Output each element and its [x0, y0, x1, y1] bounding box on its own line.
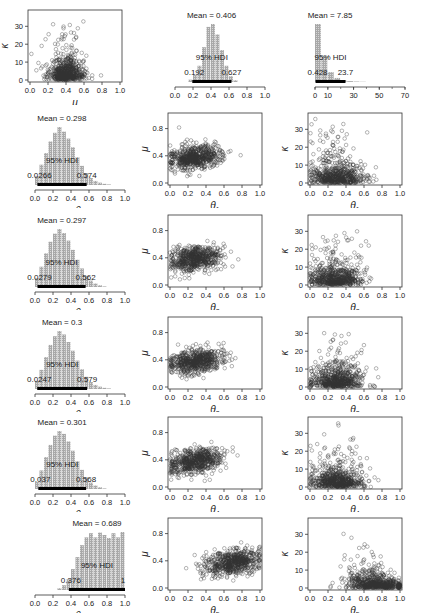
svg-text:0.8: 0.8: [237, 189, 247, 198]
svg-text:1.0: 1.0: [255, 291, 265, 300]
svg-text:0.8: 0.8: [377, 189, 387, 198]
scatter-panel-5-2: 0.00.20.40.60.81.00102030θ5κ: [280, 508, 420, 613]
svg-text:0.0: 0.0: [153, 179, 163, 188]
svg-text:0.4: 0.4: [153, 151, 163, 160]
bar-panel-0-1: 0.00.20.40.60.81.0μMean = 0.40695% HDI0.…: [140, 0, 280, 105]
svg-text:0.0: 0.0: [165, 291, 175, 300]
svg-text:20: 20: [295, 245, 303, 254]
svg-text:0.8: 0.8: [377, 291, 387, 300]
svg-text:30: 30: [295, 125, 303, 134]
svg-text:0.4: 0.4: [341, 189, 351, 198]
scatter-panel-3-2: 0.00.20.40.60.81.00102030θ3κ: [280, 307, 420, 412]
svg-text:0.4: 0.4: [341, 493, 351, 502]
svg-text:κ: κ: [280, 450, 290, 456]
svg-text:0.8: 0.8: [97, 86, 107, 95]
svg-text:0.2: 0.2: [183, 594, 193, 603]
svg-text:0.4: 0.4: [341, 594, 351, 603]
scatter-panel-4-2: 0.00.20.40.60.81.00102030θ4κ: [280, 407, 420, 512]
svg-text:0.0266: 0.0266: [27, 171, 52, 180]
svg-text:0.0: 0.0: [165, 594, 175, 603]
svg-text:0.376: 0.376: [61, 576, 82, 585]
svg-text:0.2: 0.2: [183, 189, 193, 198]
histogram-bar: [71, 451, 75, 489]
svg-text:0.0279: 0.0279: [27, 273, 52, 282]
svg-text:10: 10: [295, 161, 303, 170]
svg-text:0.8: 0.8: [153, 328, 163, 337]
svg-text:0.0: 0.0: [165, 493, 175, 502]
svg-text:1.0: 1.0: [120, 296, 130, 305]
svg-text:95% HDI: 95% HDI: [46, 258, 78, 267]
svg-text:0.4: 0.4: [201, 594, 211, 603]
svg-text:70: 70: [401, 91, 409, 100]
svg-text:μ: μ: [140, 450, 150, 457]
svg-text:0.0: 0.0: [30, 296, 40, 305]
svg-text:0.0: 0.0: [305, 189, 315, 198]
scatter-panel-1-1: 0.00.20.40.60.81.00.00.40.8θ1μ: [140, 103, 280, 208]
svg-text:0: 0: [313, 91, 317, 100]
svg-text:1.0: 1.0: [255, 189, 265, 198]
histogram-bar: [98, 285, 102, 287]
histogram-bar: [94, 385, 98, 389]
svg-text:0.4: 0.4: [206, 91, 216, 100]
svg-text:0.037: 0.037: [30, 475, 51, 484]
histogram-bar: [347, 81, 353, 82]
svg-text:0.192: 0.192: [184, 68, 205, 77]
svg-text:Mean = 7.85: Mean = 7.85: [308, 11, 353, 20]
svg-text:κ: κ: [280, 350, 290, 356]
svg-text:20: 20: [295, 548, 303, 557]
svg-text:Mean = 0.689: Mean = 0.689: [72, 519, 122, 528]
svg-text:30: 30: [295, 227, 303, 236]
svg-text:0: 0: [299, 383, 303, 392]
svg-text:95% HDI: 95% HDI: [196, 53, 228, 62]
histogram-bar: [94, 181, 98, 185]
histogram-bar: [58, 588, 62, 590]
svg-text:0.6: 0.6: [219, 594, 229, 603]
svg-text:0.4: 0.4: [66, 599, 76, 608]
svg-text:0.6: 0.6: [219, 291, 229, 300]
svg-text:0: 0: [299, 584, 303, 593]
histogram-bar: [103, 488, 107, 489]
hdi-bar: [37, 387, 87, 390]
histogram-bar: [94, 486, 98, 489]
svg-text:0.0: 0.0: [305, 393, 315, 402]
svg-text:20: 20: [295, 347, 303, 356]
svg-text:0.0: 0.0: [153, 483, 163, 492]
svg-text:20: 20: [295, 143, 303, 152]
svg-text:0.2: 0.2: [323, 393, 333, 402]
scatter-panel-3-1: 0.00.20.40.60.81.00.00.40.8θ3μ: [140, 307, 280, 412]
svg-text:0.8: 0.8: [237, 594, 247, 603]
svg-text:0.0: 0.0: [30, 194, 40, 203]
svg-text:μ: μ: [140, 350, 150, 357]
svg-text:0.2: 0.2: [323, 189, 333, 198]
svg-text:95% HDI: 95% HDI: [315, 53, 347, 62]
svg-text:10: 10: [15, 58, 23, 67]
histogram-bar: [71, 250, 75, 287]
svg-text:30: 30: [295, 429, 303, 438]
svg-text:0.428: 0.428: [308, 68, 329, 77]
svg-text:0.4: 0.4: [341, 291, 351, 300]
histogram-bar: [62, 585, 66, 590]
svg-text:0.2: 0.2: [48, 194, 58, 203]
posterior-plot-matrix: 0.00.20.40.60.81.00102030μκ0.00.20.40.60…: [0, 0, 422, 616]
svg-text:0.2: 0.2: [43, 86, 53, 95]
svg-text:0.0: 0.0: [153, 584, 163, 593]
hdi-bar: [192, 80, 231, 83]
bar-panel-4-0: 0.00.20.40.60.81.0θ4Mean = 0.30195% HDI0…: [0, 407, 140, 512]
svg-text:0.4: 0.4: [201, 291, 211, 300]
svg-text:1: 1: [121, 576, 126, 585]
svg-text:κ: κ: [280, 551, 290, 557]
svg-text:0.8: 0.8: [377, 594, 387, 603]
svg-text:0.4: 0.4: [153, 455, 163, 464]
histogram-bar: [98, 487, 102, 489]
svg-text:0.8: 0.8: [102, 194, 112, 203]
svg-text:μ: μ: [140, 146, 150, 153]
svg-text:0.2: 0.2: [48, 296, 58, 305]
bar-panel-3-0: 0.00.20.40.60.81.0θ3Mean = 0.395% HDI0.0…: [0, 307, 140, 412]
svg-text:1.0: 1.0: [255, 594, 265, 603]
svg-text:0.8: 0.8: [242, 91, 252, 100]
svg-text:1.0: 1.0: [395, 493, 405, 502]
histogram-bar: [76, 557, 80, 590]
svg-text:1.0: 1.0: [120, 194, 130, 203]
svg-text:1.0: 1.0: [395, 291, 405, 300]
svg-text:0.8: 0.8: [102, 398, 112, 407]
